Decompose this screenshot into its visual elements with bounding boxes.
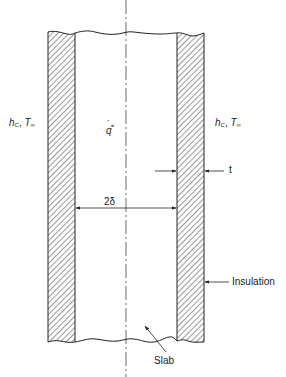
- slab-width-label: 2δ: [104, 196, 115, 207]
- slab-insulation-diagram: [0, 0, 286, 377]
- left-convection-label: hC, T∞: [9, 117, 35, 128]
- left-insulation: [48, 31, 75, 342]
- heat-generation-label: q ˙ ‴: [106, 124, 114, 136]
- insulation-label: Insulation: [232, 276, 275, 287]
- right-convection-label: hC, T∞: [215, 117, 241, 128]
- t-subscript: ∞: [31, 122, 35, 128]
- thickness-label: t: [229, 164, 232, 175]
- q-dot: ˙: [107, 119, 110, 130]
- right-insulation: [177, 33, 204, 342]
- slab-label: Slab: [154, 355, 174, 366]
- t-subscript: ∞: [237, 122, 241, 128]
